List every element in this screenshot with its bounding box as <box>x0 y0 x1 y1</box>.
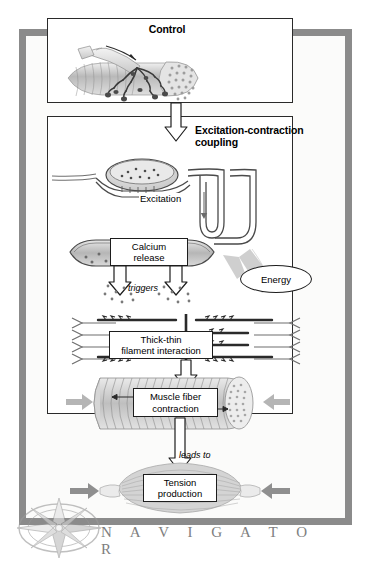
node-calcium-release-line1: Calcium <box>132 241 166 253</box>
node-energy: Energy <box>240 265 312 293</box>
navigator-label: N A V I G A T O R <box>101 524 326 558</box>
panel-ecc-title: Excitation-contraction coupling <box>195 124 320 148</box>
label-leads-to: leads to <box>179 450 211 460</box>
panel-ecc-title-line2: coupling <box>195 136 238 148</box>
label-excitation: Excitation <box>139 193 182 204</box>
node-tension-production: Tension production <box>143 474 217 502</box>
node-calcium-release-line2: release <box>133 252 164 264</box>
node-tension-line2: production <box>158 488 202 500</box>
node-calcium-release: Calcium release <box>110 238 188 266</box>
label-triggers: triggers <box>128 283 158 293</box>
node-muscle-line2: contraction <box>152 403 198 415</box>
panel-ecc-title-line1: Excitation-contraction <box>195 124 304 136</box>
node-filament-line2: filament interaction <box>121 345 201 357</box>
node-muscle-fiber-contraction: Muscle fiber contraction <box>133 388 218 417</box>
node-filament-line1: Thick-thin <box>140 334 181 346</box>
node-energy-label: Energy <box>261 274 291 285</box>
node-tension-line1: Tension <box>164 477 197 489</box>
node-muscle-line1: Muscle fiber <box>150 391 201 403</box>
panel-control-title: Control <box>107 23 227 35</box>
node-thick-thin-filament-interaction: Thick-thin filament interaction <box>109 331 213 359</box>
